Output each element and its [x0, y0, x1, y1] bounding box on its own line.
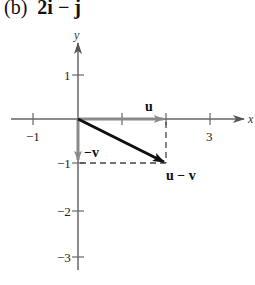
y-tick-label: −1	[57, 156, 71, 171]
x-tick-label: −1	[26, 129, 40, 144]
vector-diagram: −1 3 x 1 −1 −2 −3 y u −v u − v	[0, 0, 255, 285]
x-axis: −1 3 x	[11, 112, 254, 144]
vector-neg-v-label: −v	[84, 145, 99, 160]
vector-u-minus-v-label: u − v	[166, 168, 196, 183]
y-axis: 1 −1 −2 −3 y	[57, 28, 84, 270]
y-axis-label: y	[73, 28, 80, 42]
y-tick-label: −3	[57, 250, 71, 265]
y-tick-label: 1	[64, 68, 71, 83]
x-axis-label: x	[247, 112, 254, 126]
vector-u: u	[78, 99, 163, 119]
y-tick-label: −2	[57, 204, 71, 219]
x-tick-label: 3	[206, 129, 213, 144]
vector-u-label: u	[145, 99, 153, 114]
